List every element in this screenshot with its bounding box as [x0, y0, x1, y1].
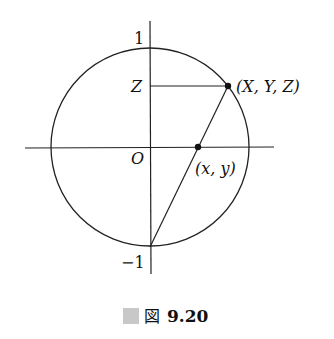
caption-number: 9.20 [167, 306, 209, 326]
caption-kanji: 図 [144, 307, 160, 326]
label-z: Z [130, 77, 143, 96]
label-origin: O [131, 149, 144, 168]
caption-marker [123, 308, 139, 324]
projected-point-dot [195, 144, 201, 150]
label-projected-point: (x, y) [195, 159, 236, 178]
stereographic-projection-diagram: 1 Z O −1 (X, Y, Z) (x, y) 図 9.20 [0, 0, 334, 339]
horizontal-axis [25, 147, 274, 148]
label-one: 1 [134, 29, 144, 48]
vertical-axis [150, 21, 151, 274]
label-sphere-point: (X, Y, Z) [236, 77, 300, 96]
sphere-point-dot [225, 83, 231, 89]
label-minus-one: −1 [121, 253, 145, 272]
